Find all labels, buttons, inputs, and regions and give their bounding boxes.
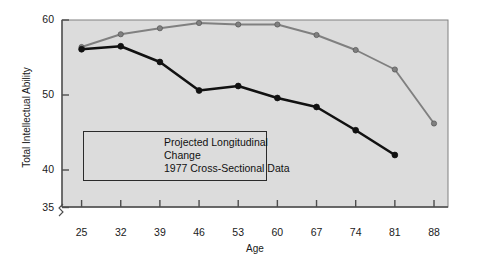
x-tick-label: 88 (421, 226, 447, 238)
data-point (235, 83, 241, 89)
data-point (157, 59, 163, 65)
y-tick-label: 60 (28, 13, 54, 25)
data-point (353, 127, 359, 133)
x-axis-title: Age (62, 243, 448, 254)
data-point (196, 20, 201, 25)
x-tick-label: 67 (304, 226, 330, 238)
data-point (196, 88, 202, 94)
x-tick-label: 39 (147, 226, 173, 238)
x-tick-label: 60 (264, 226, 290, 238)
data-point (236, 22, 241, 27)
data-point (314, 32, 319, 37)
data-point (353, 47, 358, 52)
x-tick-label: 46 (186, 226, 212, 238)
data-point (314, 104, 320, 110)
data-point (431, 121, 436, 126)
data-point (118, 32, 123, 37)
chart-container: Total Intellectual Ability Age Projected… (0, 0, 480, 263)
x-tick-label: 25 (69, 226, 95, 238)
data-point (274, 95, 280, 101)
y-tick-label: 40 (28, 163, 54, 175)
x-tick-label: 81 (382, 226, 408, 238)
legend-label-1977-cross-sectional-data: 1977 Cross-Sectional Data (164, 162, 289, 175)
x-tick-label: 53 (225, 226, 251, 238)
x-tick-label: 74 (343, 226, 369, 238)
data-point (392, 67, 397, 72)
data-point (392, 152, 398, 158)
y-tick-label: 50 (28, 88, 54, 100)
data-point (118, 43, 124, 49)
data-point (79, 46, 85, 52)
data-point (275, 22, 280, 27)
data-point (157, 26, 162, 31)
legend-label-projected-longitudinal-change: Projected Longitudinal Change (164, 136, 268, 161)
y-tick-label: 35 (28, 201, 54, 213)
x-tick-label: 32 (108, 226, 134, 238)
